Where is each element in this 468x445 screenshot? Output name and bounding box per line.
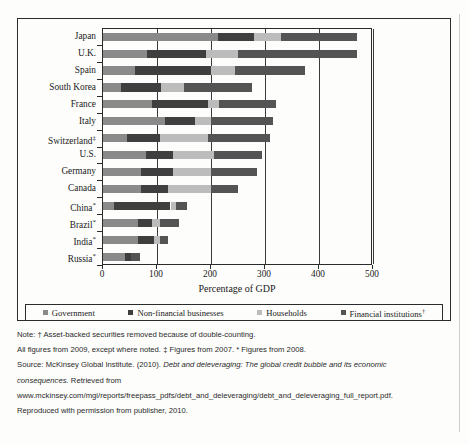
y-axis-tick [97, 180, 102, 181]
bar-segment [195, 117, 211, 125]
bar-row [103, 80, 371, 97]
stacked-bar [103, 185, 373, 193]
bar-segment [206, 50, 238, 58]
y-axis-tick [97, 113, 102, 114]
bar-segment [281, 33, 357, 41]
bar-segment [208, 100, 219, 108]
bar-segment [211, 66, 235, 74]
stacked-bar [103, 236, 373, 244]
bar-row [103, 148, 371, 165]
bar-segment [219, 100, 276, 108]
y-axis-tick [97, 62, 102, 63]
bar-segment [141, 168, 173, 176]
bar-segment [165, 117, 195, 125]
stacked-bar [103, 134, 373, 142]
y-axis-label: Brazil* [70, 217, 96, 230]
figure-frame: JapanU.K.SpainSouth KoreaFranceItalySwit… [17, 18, 451, 321]
y-axis-tick [97, 231, 102, 232]
bar-segment [125, 253, 131, 261]
bar-segment [214, 151, 263, 159]
stacked-bar [103, 219, 373, 227]
page-edge-line [459, 14, 460, 432]
bar-segment [211, 117, 273, 125]
chart-plot-wrapper: JapanU.K.SpainSouth KoreaFranceItalySwit… [18, 19, 452, 322]
y-axis-label: U.K. [78, 48, 96, 58]
stacked-bar [103, 50, 373, 58]
bar-segment [168, 185, 211, 193]
bar-row [103, 131, 371, 148]
source-prefix: Source: McKinsey Global Institute. (2010… [17, 360, 163, 369]
x-axis-tick-label: 400 [311, 269, 325, 280]
bar-segment [176, 202, 187, 210]
y-axis-label: U.S. [79, 149, 96, 159]
stacked-bar [103, 168, 373, 176]
bar-segment [103, 50, 147, 58]
legend-item: Government [43, 308, 95, 318]
bar-segment [211, 168, 257, 176]
y-axis-tick [97, 96, 102, 97]
bar-segment [103, 134, 127, 142]
legend-item: Households [257, 308, 307, 318]
bar-segment [152, 100, 209, 108]
bar-segment [114, 202, 171, 210]
stacked-bar [103, 83, 373, 91]
y-axis-tick [97, 147, 102, 148]
bar-segment [103, 219, 138, 227]
legend-label: Households [266, 308, 307, 318]
bar-segment [238, 50, 357, 58]
bar-row [103, 29, 371, 46]
chart-y-axis-labels: JapanU.K.SpainSouth KoreaFranceItalySwit… [18, 28, 100, 265]
y-axis-tick [97, 248, 102, 249]
x-axis-tick-label: 100 [149, 269, 163, 280]
chart-plot-area [102, 28, 372, 265]
y-axis-label: France [71, 99, 96, 109]
note-line-3: Source: McKinsey Global Institute. (2010… [17, 357, 453, 372]
bar-segment [208, 134, 270, 142]
y-axis-tick [97, 197, 102, 198]
bar-row [103, 114, 371, 131]
y-axis-label: Russia* [68, 251, 96, 264]
y-axis-label: India* [73, 234, 96, 247]
source-title-part2: consequences. [17, 376, 69, 385]
bar-segment [131, 253, 140, 261]
legend-label: Government [52, 308, 95, 318]
y-axis-label: Canada [68, 183, 96, 193]
bar-segment [160, 134, 209, 142]
note-line-1: Note: † Asset-backed securities removed … [17, 327, 453, 342]
stacked-bar [103, 100, 373, 108]
bar-row [103, 46, 371, 63]
bar-segment [127, 134, 159, 142]
legend-swatch-icon [257, 310, 262, 315]
bar-segment [211, 185, 238, 193]
bar-segment [147, 50, 206, 58]
figure-page: JapanU.K.SpainSouth KoreaFranceItalySwit… [0, 0, 468, 445]
stacked-bar [103, 66, 373, 74]
bar-segment [103, 185, 141, 193]
bar-segment [103, 100, 152, 108]
bar-segment [103, 66, 135, 74]
bar-segment [103, 117, 165, 125]
bar-row [103, 215, 371, 232]
gridline-500 [373, 29, 374, 264]
bar-segment [173, 168, 211, 176]
bar-segment [141, 185, 168, 193]
x-axis-tick-label: 300 [257, 269, 271, 280]
source-url: www.mckinsey.com/mgi/reports/freepass_pd… [17, 388, 453, 403]
legend-item: Financial institutions† [341, 307, 426, 319]
y-axis-label: China* [70, 200, 96, 213]
stacked-bar [103, 202, 373, 210]
bar-segment [103, 253, 125, 261]
chart-legend: GovernmentNon-financial businessesHouseh… [25, 304, 443, 321]
stacked-bar [103, 151, 373, 159]
y-axis-tick [97, 214, 102, 215]
figure-notes: Note: † Asset-backed securities removed … [17, 327, 453, 418]
y-axis-label: Switzerland‡ [48, 133, 96, 146]
stacked-bar [103, 117, 373, 125]
bar-segment [184, 83, 252, 91]
bar-segment [160, 236, 168, 244]
bar-segment [103, 168, 141, 176]
bar-row [103, 63, 371, 80]
bar-segment [135, 66, 211, 74]
bar-segment [103, 151, 146, 159]
permission-line: Reproduced with permission from publishe… [17, 403, 453, 418]
